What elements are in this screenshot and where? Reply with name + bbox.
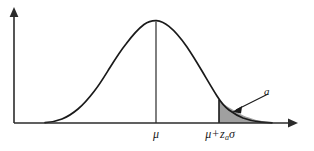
critical-value-z-symbol: z <box>220 127 225 141</box>
y-axis-arrowhead-icon <box>10 7 19 17</box>
critical-value-plus-sign: + <box>211 127 220 141</box>
critical-value-sigma-symbol: σ <box>229 127 235 141</box>
normal-curve <box>45 21 272 123</box>
x-axis-arrowhead-icon <box>288 119 298 128</box>
critical-value-tick-label: μ+zaσ <box>186 128 254 142</box>
mean-tick-label: μ <box>140 128 172 140</box>
tail-area-label: a <box>264 86 270 97</box>
figure-container: μ μ+zaσ a <box>0 0 314 151</box>
